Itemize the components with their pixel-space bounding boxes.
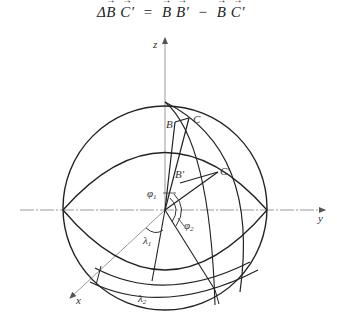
x-axis-label: x (75, 294, 81, 306)
meridian-arc-2 (165, 102, 215, 305)
line-O-B (165, 122, 175, 210)
point-B-prime-label: B′ (175, 168, 185, 180)
line-B-C (175, 118, 189, 122)
line-O-C (165, 118, 189, 210)
phi1-label: φ1 (147, 187, 157, 201)
lambda1-arc (146, 228, 163, 233)
point-B-label: B (166, 118, 173, 130)
phi2-label: φ2 (184, 219, 194, 233)
latitude-arc-inner (95, 262, 250, 285)
point-C-label: C (193, 113, 201, 125)
line-Bprime-Cprime (180, 172, 218, 183)
lambda2-label: λ2 (137, 292, 147, 306)
y-axis-label: y (317, 212, 323, 224)
sphere-diagram: z y x B C B′ C′ φ1 φ2 λ1 λ2 (0, 0, 342, 317)
lower-lens-arc (63, 210, 267, 270)
z-axis-label: z (152, 38, 158, 50)
point-C-prime-label: C′ (220, 165, 230, 177)
lambda1-label: λ1 (142, 234, 151, 248)
